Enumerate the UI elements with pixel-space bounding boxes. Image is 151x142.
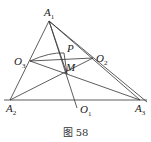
label-m: M [66, 62, 75, 73]
label-o3: O3 [14, 56, 25, 70]
label-a2: A2 [6, 103, 16, 117]
figure-caption: 图 58 [0, 124, 151, 139]
label-o1: O1 [80, 104, 91, 118]
label-a1: A1 [44, 7, 54, 21]
label-p: P [67, 43, 74, 54]
label-a3: A3 [135, 103, 145, 117]
diagram-lines [0, 0, 151, 142]
line-o3-a3 [30, 61, 140, 100]
label-o2: O2 [96, 53, 107, 67]
geometry-figure: A1 A2 A3 O1 O2 O3 M P 图 58 [0, 0, 151, 142]
